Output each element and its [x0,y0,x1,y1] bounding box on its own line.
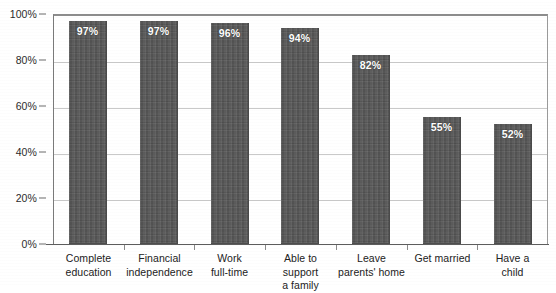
bar: 82% [352,55,390,244]
y-tick-label: 100% [10,8,37,20]
x-axis-baseline [46,244,549,245]
bar: 94% [281,28,319,244]
y-tick-label: 40% [16,146,37,158]
bar-value-label: 97% [69,25,106,37]
category-separator-tick [124,245,125,250]
bar-value-label: 94% [281,32,318,44]
category-label: Financial independence [124,252,195,279]
category-label: Work full-time [194,252,265,279]
bar-value-label: 82% [352,59,389,71]
y-tick-mark [39,244,46,245]
category-separator-tick [477,245,478,250]
category-separator-tick [407,245,408,250]
category-label: Complete education [53,252,124,279]
bars-layer: 97%97%96%94%82%55%52% [53,14,548,244]
bar-value-label: 97% [140,25,177,37]
bar-value-label: 96% [211,27,248,39]
category-label: Able to support a family [265,252,336,293]
bar: 96% [211,23,249,244]
category-label: Have a child [477,252,548,279]
x-axis-labels: Complete educationFinancial independence… [53,252,548,285]
y-tick-mark [39,106,46,107]
y-tick-label: 80% [16,54,37,66]
category-label: Leave parents' home [336,252,407,279]
y-tick-mark [39,60,46,61]
bar: 55% [423,117,461,244]
y-tick-mark [39,14,46,15]
category-separator-tick [336,245,337,250]
bar: 97% [69,21,107,244]
y-tick-mark [39,152,46,153]
bar: 97% [140,21,178,244]
bar: 52% [494,124,532,244]
y-tick-label: 20% [16,192,37,204]
bar-value-label: 55% [423,121,460,133]
category-separator-tick [265,245,266,250]
category-separator-tick [194,245,195,250]
y-tick-mark [39,198,46,199]
category-label: Get married [407,252,478,266]
y-axis: 0%20%40%60%80%100% [0,0,46,250]
y-tick-label: 0% [22,238,37,250]
bar-value-label: 52% [494,128,531,140]
y-tick-label: 60% [16,100,37,112]
